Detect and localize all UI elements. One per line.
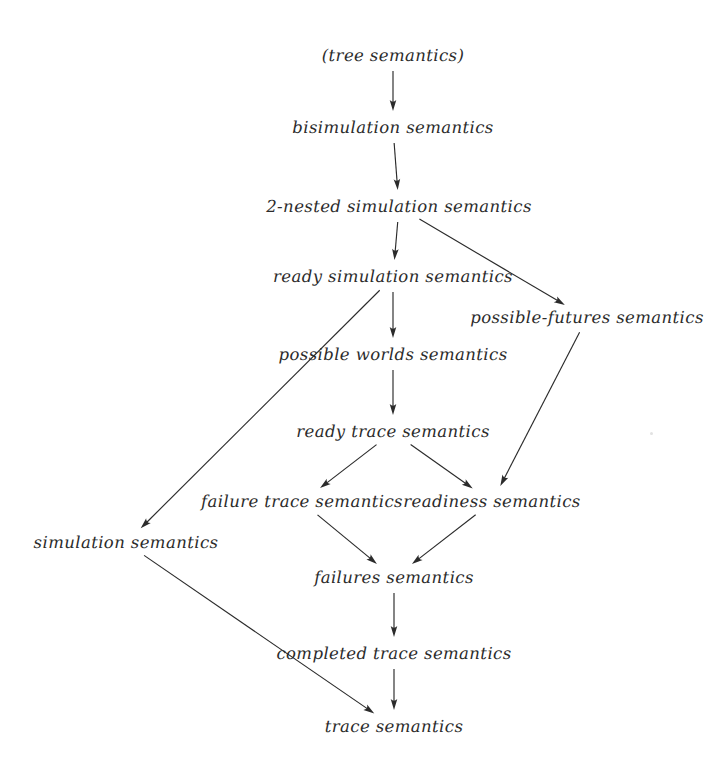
node-completed_trace: completed trace semantics — [276, 646, 511, 663]
arrowhead-icon — [394, 179, 401, 190]
node-possible_futures: possible-futures semantics — [470, 310, 704, 327]
edge-bisimulation-to-2-nested — [394, 143, 401, 190]
page-speck — [650, 432, 653, 435]
arrowhead-icon — [391, 699, 398, 710]
edge-shaft — [394, 143, 397, 181]
node-two_nested: 2-nested simulation semantics — [266, 199, 532, 216]
arrowhead-icon — [391, 626, 398, 637]
arrowhead-icon — [554, 297, 565, 305]
edge-possible-worlds-to-ready-trace — [390, 370, 397, 415]
edge-shaft — [327, 445, 376, 483]
arrowhead-icon — [500, 475, 508, 486]
edge-shaft — [419, 515, 476, 559]
node-ready_trace: ready trace semantics — [296, 424, 490, 441]
node-ready_simulation: ready simulation semantics — [273, 269, 513, 286]
arrowhead-icon — [390, 404, 397, 415]
edge-readiness-to-failures — [412, 515, 476, 564]
edge-possible-futures-to-readiness — [500, 332, 579, 486]
edge-shaft — [504, 332, 579, 478]
edge-shaft — [147, 290, 380, 522]
arrowhead-icon — [392, 249, 399, 260]
node-simulation: simulation semantics — [34, 535, 219, 552]
edge-failures-to-completed-trace — [391, 593, 398, 637]
arrowhead-icon — [320, 479, 331, 488]
spectrum-diagram: (tree semantics)bisimulation semantics2-… — [0, 0, 725, 773]
node-failures: failures semantics — [314, 570, 474, 587]
edge-shaft — [411, 444, 466, 483]
edge-ready-simulation-to-possible-worlds — [390, 292, 397, 338]
arrowhead-icon — [390, 100, 397, 111]
node-trace: trace semantics — [325, 719, 464, 736]
edge-failure-trace-to-failures — [318, 515, 377, 564]
node-possible_worlds: possible worlds semantics — [278, 347, 507, 364]
edge-shaft — [318, 515, 370, 558]
arrowhead-icon — [412, 555, 423, 564]
arrowhead-icon — [462, 479, 473, 488]
node-readiness: readiness semantics — [403, 494, 580, 511]
edge-shaft — [419, 219, 557, 300]
node-tree: (tree semantics) — [322, 48, 465, 65]
edge-shaft — [395, 222, 398, 251]
node-bisimulation: bisimulation semantics — [292, 120, 493, 137]
node-failure_trace: failure trace semantics — [201, 494, 403, 511]
arrowhead-icon — [363, 705, 374, 714]
arrowhead-icon — [366, 554, 377, 564]
arrowhead-icon — [141, 518, 151, 528]
edge-ready-trace-to-readiness — [411, 444, 473, 488]
edge-2-nested-to-possible-futures — [419, 219, 564, 305]
edge-completed-trace-to-trace — [391, 669, 398, 710]
arrowhead-icon — [390, 327, 397, 338]
edge-ready-trace-to-failure-trace — [320, 445, 377, 488]
edge-2-nested-to-ready-simulation — [392, 222, 399, 260]
edge-tree-to-bisimulation — [390, 71, 397, 111]
